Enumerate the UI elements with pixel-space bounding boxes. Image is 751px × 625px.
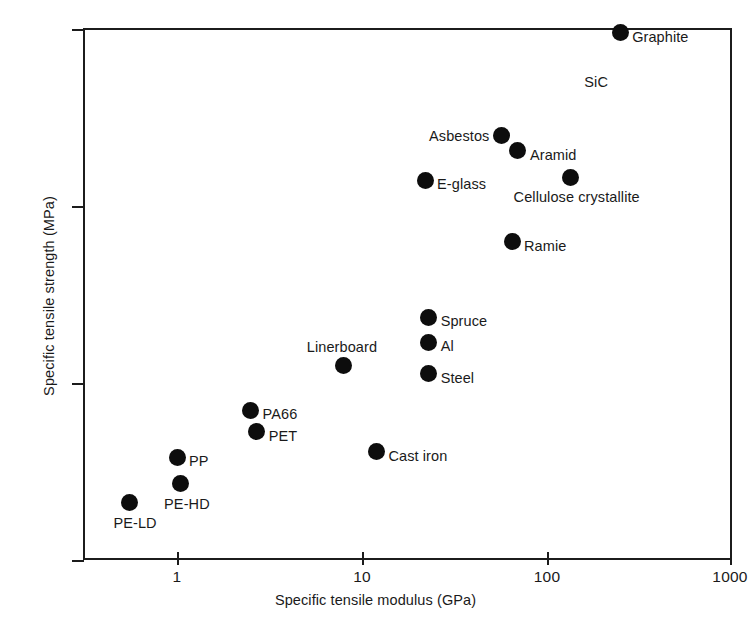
data-point <box>420 309 437 326</box>
chart-annotation: SiC <box>584 74 608 90</box>
x-tick-100 <box>547 552 549 565</box>
data-point-label: Steel <box>441 370 475 386</box>
data-point-label: Ramie <box>524 238 566 254</box>
data-point <box>121 494 138 511</box>
scatter-chart: 10000 1000 100 10 1 10 100 1000 Specific… <box>0 0 751 625</box>
data-point-label: PP <box>189 453 209 469</box>
data-point-label: PE-LD <box>113 515 156 531</box>
x-tick-label-10: 10 <box>322 568 402 586</box>
data-point-label: Spruce <box>441 313 488 329</box>
data-point-label: Linerboard <box>307 339 377 355</box>
data-point <box>242 402 259 419</box>
data-point-label: E-glass <box>437 176 486 192</box>
x-tick-label-100: 100 <box>507 568 587 586</box>
data-point-label: PA66 <box>263 406 298 422</box>
data-point <box>169 449 186 466</box>
data-point-label: PE-HD <box>164 496 210 512</box>
x-tick-1000 <box>730 552 732 565</box>
y-tick-10000 <box>72 29 84 31</box>
data-point-label: Aramid <box>530 147 577 163</box>
data-point <box>504 233 521 250</box>
y-tick-100 <box>72 383 84 385</box>
data-point <box>368 443 385 460</box>
data-point-label: Al <box>441 338 454 354</box>
data-point-label: Cellulose crystallite <box>514 189 640 205</box>
x-tick-10 <box>362 552 364 565</box>
data-point <box>562 169 579 186</box>
data-point <box>420 334 437 351</box>
data-point <box>612 24 629 41</box>
plot-frame-right <box>730 28 732 561</box>
data-point <box>417 172 434 189</box>
data-point-label: Asbestos <box>429 128 489 144</box>
y-axis-title: Specific tensile strength (MPa) <box>41 146 57 446</box>
data-point-label: PET <box>269 428 298 444</box>
data-point <box>493 127 510 144</box>
data-point-label: Cast iron <box>388 448 447 464</box>
y-tick-10 <box>72 560 84 562</box>
x-axis-title: Specific tensile modulus (GPa) <box>0 592 751 608</box>
x-tick-1 <box>177 552 179 565</box>
x-tick-label-1000: 1000 <box>690 568 751 586</box>
x-tick-label-1: 1 <box>137 568 217 586</box>
y-tick-1000 <box>72 206 84 208</box>
data-point-label: Graphite <box>632 29 688 45</box>
